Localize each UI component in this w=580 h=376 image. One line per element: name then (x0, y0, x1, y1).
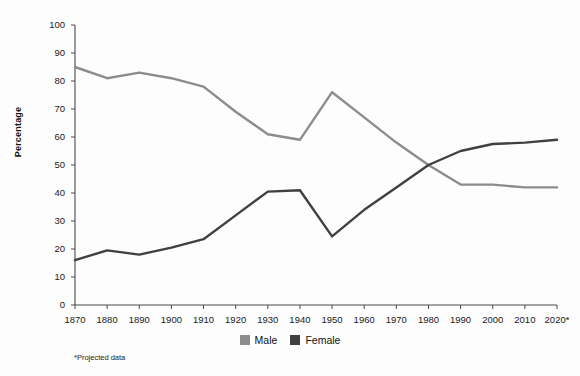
chart-legend: MaleFemale (0, 334, 580, 346)
legend-item-female[interactable]: Female (290, 334, 340, 346)
y-axis-tick-label: 100 (39, 20, 65, 30)
x-axis-tick-label: 1900 (161, 314, 182, 325)
x-axis-tick-label: 1940 (289, 314, 310, 325)
y-axis-tick-label: 0 (39, 300, 65, 310)
y-axis-tick-label: 20 (39, 244, 65, 254)
y-axis-tick-label: 60 (39, 132, 65, 142)
line-chart: Percentage 0102030405060708090100 187018… (0, 0, 580, 376)
x-axis-tick-label: 2020* (545, 314, 570, 325)
legend-swatch-male (240, 335, 250, 345)
y-axis-tick-label: 50 (39, 160, 65, 170)
x-axis-tick-label: 1890 (129, 314, 150, 325)
legend-label: Male (255, 334, 278, 346)
y-axis-tick-label: 80 (39, 76, 65, 86)
series-line-male (75, 67, 557, 187)
x-axis-tick-label: 1920 (225, 314, 246, 325)
x-axis-tick-label: 1930 (257, 314, 278, 325)
legend-item-male[interactable]: Male (240, 334, 278, 346)
series-line-female (75, 140, 557, 260)
y-axis-title: Percentage (13, 92, 23, 172)
y-axis-tick-label: 30 (39, 216, 65, 226)
footnote: *Projected data (74, 353, 125, 362)
y-axis-tick-label: 70 (39, 104, 65, 114)
x-axis-tick-label: 1950 (321, 314, 342, 325)
y-axis-tick-label: 40 (39, 188, 65, 198)
y-axis-tick-label: 10 (39, 272, 65, 282)
x-axis-tick-label: 1970 (386, 314, 407, 325)
y-axis-tick-label: 90 (39, 48, 65, 58)
x-axis-tick-label: 2010 (514, 314, 535, 325)
x-axis-tick-label: 2000 (482, 314, 503, 325)
legend-swatch-female (290, 335, 300, 345)
x-axis-tick-label: 1990 (450, 314, 471, 325)
legend-label: Female (305, 334, 340, 346)
x-axis-tick-label: 1870 (64, 314, 85, 325)
x-axis-tick-label: 1880 (97, 314, 118, 325)
x-axis-tick-label: 1980 (418, 314, 439, 325)
x-axis-tick-label: 1910 (193, 314, 214, 325)
x-axis-tick-label: 1960 (354, 314, 375, 325)
